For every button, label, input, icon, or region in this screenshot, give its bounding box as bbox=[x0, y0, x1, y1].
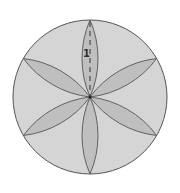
center-point bbox=[89, 96, 92, 99]
radius-label: 1 bbox=[83, 48, 90, 59]
flower-diagram: 1 bbox=[0, 0, 180, 193]
